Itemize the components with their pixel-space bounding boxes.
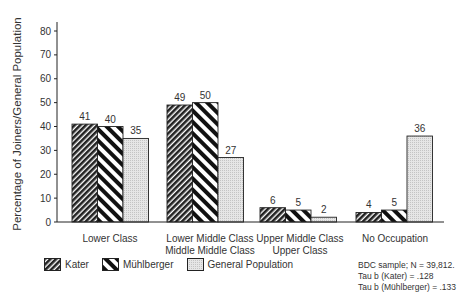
general-population-bar [123,138,149,222]
muhlberger-bar [286,210,312,222]
bar-value-label: 49 [174,92,186,103]
legend-item-muhlberger: Mühlberger [102,258,174,271]
category-label-lower-class: Lower Class [60,233,160,245]
kater-bar [167,105,193,222]
category-line: Upper Middle Class [250,233,350,245]
bar-value-label: 6 [270,195,276,206]
category-line: Middle Middle Class [155,245,265,257]
y-tick-label: 10 [40,193,52,204]
category-line: Lower Class [60,233,160,245]
bar-value-label: 36 [414,123,426,134]
sample-note: BDC sample; N = 39,812. Tau b (Kater) = … [358,260,456,293]
y-tick-label: 40 [40,121,52,132]
muhlberger-swatch-icon [102,258,119,271]
bar-value-label: 5 [295,197,301,208]
note-line: Tau b (Mühlberger) = .133 [358,282,456,293]
category-line: Upper Class [250,245,350,257]
note-line: BDC sample; N = 39,812. [358,260,456,271]
muhlberger-bar [98,127,124,223]
kater-bar [356,212,382,222]
bar-value-label: 2 [321,204,327,215]
general-population-bar [218,158,244,222]
y-tick-label: 20 [40,169,52,180]
bar-value-label: 41 [79,111,91,122]
y-tick-label: 80 [40,26,52,37]
y-tick-label: 30 [40,145,52,156]
bars: 4149644050553527236 [72,90,433,222]
y-tick-label: 60 [40,73,52,84]
bar-value-label: 40 [105,114,117,125]
general-population-bar [311,217,337,222]
bar-value-label: 5 [391,197,397,208]
category-line: Lower Middle Class [155,233,265,245]
legend-label: Kater [65,259,89,270]
general-population-bar [407,136,433,222]
bar-value-label: 27 [225,145,237,156]
kater-bar [260,208,286,222]
general-population-swatch-icon [187,258,204,271]
y-tick-label: 50 [40,97,52,108]
kater-bar [72,124,98,222]
category-line: No Occupation [345,233,445,245]
note-line: Tau b (Kater) = .128 [358,271,456,282]
kater-swatch-icon [44,258,61,271]
bar-value-label: 35 [130,125,142,136]
category-label-middle-class: Lower Middle Class Middle Middle Class [155,233,265,257]
bar-value-label: 50 [200,90,212,101]
legend-item-kater: Kater [44,258,89,271]
muhlberger-bar [193,103,219,222]
y-tick-label: 0 [45,217,51,228]
category-label-no-occupation: No Occupation [345,233,445,245]
legend: Kater Mühlberger General Population [44,258,306,271]
muhlberger-bar [382,210,408,222]
legend-item-general-population: General Population [187,258,294,271]
legend-label: Mühlberger [123,259,174,270]
bar-value-label: 4 [366,199,372,210]
y-tick-label: 70 [40,49,52,60]
legend-label: General Population [208,259,294,270]
y-axis: 01020304050607080 [40,26,57,228]
category-label-upper-class: Upper Middle Class Upper Class [250,233,350,257]
